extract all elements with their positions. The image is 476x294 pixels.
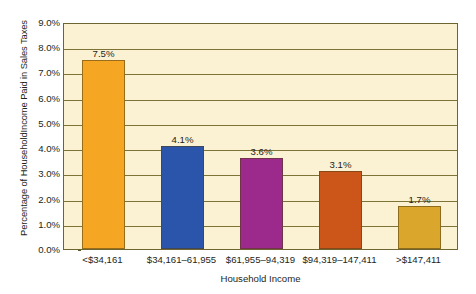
- plot-area: 7.5%4.1%3.6%3.1%1.7%: [63, 23, 458, 250]
- y-axis-tick-label: 9.0%: [18, 18, 60, 28]
- x-axis-tick-label: $34,161–61,955: [142, 253, 221, 266]
- x-axis-tick-labels: <$34,161$34,161–61,955$61,955–94,319$94,…: [63, 253, 458, 267]
- y-axis-tick-label: 0.0%: [18, 245, 60, 255]
- y-axis-tick-label: 6.0%: [18, 94, 60, 104]
- x-axis-tick-label: <$34,161: [63, 253, 142, 266]
- x-axis-title: Household Income: [63, 272, 458, 285]
- y-axis-tick-label: 2.0%: [18, 195, 60, 205]
- bar[interactable]: 1.7%: [398, 206, 441, 249]
- x-axis-tick-label: >$147,411: [379, 253, 458, 266]
- x-axis-tick-label: $61,955–94,319: [221, 253, 300, 266]
- bars-layer: 7.5%4.1%3.6%3.1%1.7%: [64, 24, 457, 249]
- y-axis-tick-label: 7.0%: [18, 68, 60, 78]
- bar[interactable]: 3.6%: [240, 158, 283, 249]
- y-axis-tick-mark: [78, 250, 81, 251]
- bar-value-label: 3.6%: [251, 146, 273, 157]
- bar-value-label: 7.5%: [93, 48, 115, 59]
- y-axis-tick-label: 8.0%: [18, 43, 60, 53]
- sales-tax-bar-chart: Percentage of HouseholdIncome Paid in Sa…: [0, 0, 476, 294]
- x-axis-tick-label: $94,319–147,411: [300, 253, 379, 266]
- bar-value-label: 1.7%: [409, 194, 431, 205]
- y-axis-tick-label: 5.0%: [18, 119, 60, 129]
- bar[interactable]: 4.1%: [161, 146, 204, 249]
- y-axis-tick-label: 1.0%: [18, 220, 60, 230]
- bar-value-label: 3.1%: [330, 159, 352, 170]
- bar-value-label: 4.1%: [172, 134, 194, 145]
- y-axis-tick-label: 4.0%: [18, 144, 60, 154]
- y-axis-tick-labels: 0.0%1.0%2.0%3.0%4.0%5.0%6.0%7.0%8.0%9.0%: [18, 23, 60, 250]
- y-axis-tick-label: 3.0%: [18, 169, 60, 179]
- bar[interactable]: 7.5%: [82, 60, 125, 249]
- bar[interactable]: 3.1%: [319, 171, 362, 249]
